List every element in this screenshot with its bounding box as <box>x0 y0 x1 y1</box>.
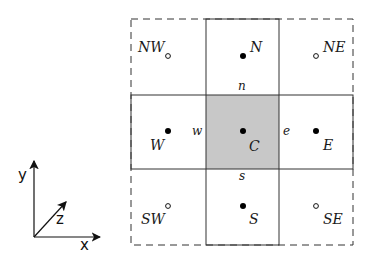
label-ne: NE <box>322 39 345 55</box>
axis-label-z: z <box>56 210 64 228</box>
node-ne-point <box>314 54 319 59</box>
axis-label-y: y <box>18 166 27 184</box>
node-points <box>165 53 319 209</box>
label-s: S <box>249 211 259 227</box>
label-w: W <box>150 137 166 153</box>
label-e: E <box>322 137 333 153</box>
node-n-point <box>240 53 246 59</box>
node-sw-point <box>166 204 171 209</box>
node-e-point <box>313 128 319 134</box>
node-w-point <box>165 128 171 134</box>
face-label-s: s <box>239 169 245 183</box>
coordinate-axes <box>34 161 100 237</box>
node-c-point <box>240 128 246 134</box>
label-n: N <box>249 39 263 55</box>
node-se-point <box>314 204 319 209</box>
label-se: SE <box>323 211 343 227</box>
label-nw: NW <box>137 39 166 55</box>
face-label-n: n <box>238 79 246 93</box>
axis-label-x: x <box>80 236 89 254</box>
stencil-diagram: NW N NE W C E SW S SE n s w e y x z <box>0 0 370 255</box>
label-sw: SW <box>141 211 167 227</box>
label-c: C <box>249 138 260 154</box>
face-label-e: e <box>283 124 290 138</box>
node-nw-point <box>166 54 171 59</box>
node-s-point <box>240 203 246 209</box>
face-label-w: w <box>192 124 203 138</box>
